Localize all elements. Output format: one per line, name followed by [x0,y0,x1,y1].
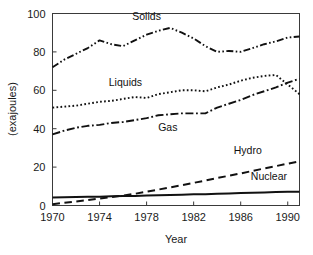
x-axis-ticks: 197019741978198219861990 [40,202,300,223]
x-tick-label: 1990 [275,211,299,223]
chart-canvas: 020406080100 197019741978198219861990 So… [0,0,313,255]
x-axis-title: Year [165,233,188,245]
series-label-nuclear: Nuclear [251,170,288,182]
y-axis-title: (exajoules) [6,82,18,136]
series-line-nuclear [53,192,300,198]
y-tick-label: 80 [33,46,45,58]
x-tick-label: 1970 [40,211,64,223]
series-line-solids [53,28,300,67]
series-label-hydro: Hydro [234,144,262,156]
y-tick-label: 20 [33,161,45,173]
y-tick-label: 60 [33,84,45,96]
series-label-gas: Gas [158,121,177,133]
series-label-liquids: Liquids [109,76,142,88]
x-tick-label: 1986 [228,211,252,223]
energy-consumption-chart: 020406080100 197019741978198219861990 So… [0,0,313,255]
x-tick-label: 1982 [181,211,205,223]
y-tick-label: 40 [33,123,45,135]
x-tick-label: 1974 [87,211,111,223]
y-tick-label: 100 [27,8,45,20]
series-annotations-group: SolidsLiquidsGasHydroNuclear [109,10,288,181]
series-label-solids: Solids [132,10,161,22]
x-tick-label: 1978 [134,211,158,223]
